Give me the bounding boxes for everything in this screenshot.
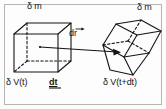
label-delta-v-t-plus-dt: δ V(t+dt) [103,77,137,87]
dr-vector-overbar [76,28,85,31]
right-cube-group [103,20,161,75]
displacement-arrow-shaft [40,47,117,52]
label-delta-v-t: δ V(t) [6,77,27,87]
left-cube-top-face [14,23,71,34]
right-cube-hidden-edges [103,20,149,53]
label-delta-m-right: δ m [137,2,152,12]
label-dt: dt [49,77,57,87]
displacement-arrow-origin-dot [39,46,41,48]
label-dr-vector: dr [69,28,77,38]
diagram-canvas [0,0,166,109]
left-cube-front-face [14,34,58,72]
right-cube-right-face [124,31,161,57]
label-delta-m-left: δ m [27,1,42,11]
displacement-arrow-group [39,46,121,56]
right-cube-bottom-right [133,53,149,75]
figure-container: δ m δ m δ V(t) dt δ V(t+dt) dr [0,0,166,109]
